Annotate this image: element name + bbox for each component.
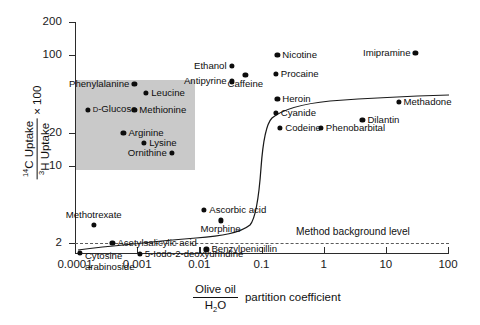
data-point-label: D-Glucose [93, 104, 137, 116]
small-cap-prefix: D [93, 105, 98, 114]
data-point-label: Phenylalanine [69, 79, 129, 90]
y-axis-numerator-text: C Uptake [23, 121, 35, 169]
x-tick-mark [448, 247, 449, 253]
x-axis-denominator: H2O [203, 299, 228, 312]
data-point-label: Ascorbic acid [209, 204, 266, 215]
x-axis-title: Olive oil H2O partition coefficient [193, 283, 341, 312]
data-point [202, 207, 207, 212]
data-point [278, 125, 283, 130]
data-point-label: Ornithine [128, 148, 167, 159]
y-tick-label: 2 [0, 237, 74, 249]
data-point-label: Cytosinearabinoside [85, 251, 135, 272]
y-axis-denominator-text: H Uptake [39, 123, 51, 171]
y-axis-denominator: 3H Uptake [39, 121, 52, 177]
data-point [413, 50, 418, 55]
data-point-label: Antipyrine [184, 76, 227, 87]
y-axis-title: 14C Uptake 3H Uptake × 100 [23, 42, 52, 222]
y-axis-ratio: 14C Uptake 3H Uptake [23, 119, 52, 179]
data-point [396, 99, 401, 104]
data-point-label: 5-Iodo-2-deoxyurindine [145, 248, 244, 259]
x-tick-label: 0.01 [188, 258, 210, 270]
y-axis-multiplier: × 100 [31, 86, 43, 115]
data-point-label: Caffeine [228, 79, 264, 90]
x-tick-mark [75, 247, 76, 253]
data-point-label: Imipramine [363, 48, 410, 59]
data-point-label: Nicotine [282, 50, 317, 61]
x-tick-mark [324, 247, 325, 253]
data-point-label: Procaine [281, 68, 319, 79]
data-point-label: Methadone [404, 96, 452, 107]
hydrogen-3-superscript: 3 [37, 171, 46, 175]
data-point-label: Leucine [151, 87, 185, 98]
data-point-label: Methotrexate [66, 211, 122, 222]
brain-uptake-scatter-chart: 20010020102 0.00010.0010.010.1110100 Met… [0, 0, 480, 325]
x-tick-mark [386, 247, 387, 253]
data-point [273, 110, 278, 115]
x-tick-label: 1 [320, 258, 326, 270]
data-point-label: Codeine [285, 123, 321, 134]
data-point [91, 223, 96, 228]
water-o: O [217, 299, 226, 311]
data-point [229, 63, 234, 68]
data-point [275, 97, 280, 102]
method-background-label: Method background level [296, 226, 410, 237]
x-tick-label: 100 [438, 258, 457, 270]
data-point [218, 218, 223, 223]
water-h: H [205, 299, 213, 311]
data-point [77, 251, 82, 256]
x-tick-label: 0.1 [254, 258, 270, 270]
x-axis-ratio: Olive oil H2O [193, 283, 238, 312]
data-point-label: Ethanol [194, 61, 227, 72]
carbon-14-superscript: 14 [21, 169, 30, 177]
x-axis-numerator: Olive oil [193, 283, 238, 296]
x-tick-label: 10 [379, 258, 392, 270]
data-point-label: Morphine [201, 224, 241, 235]
data-point [137, 251, 142, 256]
y-tick-label: 200 [0, 16, 74, 28]
data-point-label: Dilantin [367, 115, 399, 126]
data-point-label: Cyanide [281, 108, 316, 119]
data-point-label: Heroin [282, 94, 310, 105]
data-point [243, 73, 248, 78]
fraction-bar [193, 297, 238, 298]
data-point [318, 125, 323, 130]
y-axis-numerator: 14C Uptake [23, 119, 36, 179]
data-point-label: Methionine [139, 105, 186, 116]
data-point [275, 53, 280, 58]
x-axis-title-suffix: partition coefficient [245, 291, 341, 303]
data-point [273, 71, 278, 76]
data-point [110, 240, 115, 245]
